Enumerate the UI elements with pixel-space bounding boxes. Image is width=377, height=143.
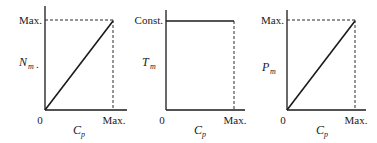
x-axis-label-sub: p — [323, 130, 328, 139]
y-tick-max: Max. — [261, 14, 284, 26]
x-tick-origin: 0 — [280, 114, 286, 126]
y-axis-label: P — [261, 60, 270, 74]
y-axis-label: N — [18, 55, 28, 69]
y-tick-max: Max. — [19, 14, 42, 26]
chart-figure: Max. N m . 0 Max. C p Const. T m 0 Max. … — [0, 0, 377, 143]
panel-middle: Const. T m 0 Max. C p — [135, 10, 247, 139]
y-axis-label-sub: m — [270, 67, 276, 76]
x-axis-label-sub: p — [201, 130, 206, 139]
panel-left: Max. N m . 0 Max. C p — [18, 6, 127, 139]
y-axis-label-sub: m — [28, 62, 34, 71]
y-axis-label-suffix: . — [36, 58, 39, 70]
panel-right: Max. P m 0 Max. C p — [261, 10, 368, 139]
y-axis-label: T — [142, 55, 150, 69]
x-axis-label-sub: p — [80, 130, 85, 139]
series-line-pm — [287, 21, 355, 110]
x-tick-max: Max. — [345, 114, 368, 126]
series-line-nm — [45, 21, 113, 110]
y-axis-label-sub: m — [150, 62, 156, 71]
y-tick-const: Const. — [135, 14, 164, 26]
x-tick-origin: 0 — [159, 114, 165, 126]
x-tick-origin: 0 — [37, 114, 43, 126]
x-tick-max: Max. — [103, 114, 126, 126]
x-tick-max: Max. — [224, 114, 247, 126]
